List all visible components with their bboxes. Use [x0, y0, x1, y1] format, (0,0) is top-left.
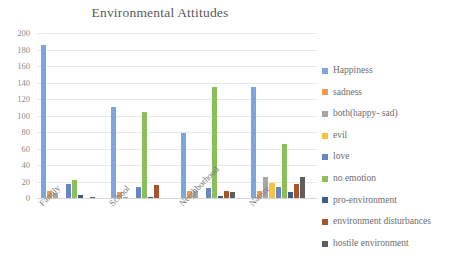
legend-label: love — [333, 152, 349, 162]
bar — [251, 87, 256, 198]
bar — [294, 184, 299, 198]
legend-label: environment disturbances — [333, 217, 431, 227]
legend-item-both-happy-sad[interactable]: both(happy- sad) — [322, 103, 467, 125]
bar-group-family — [37, 33, 107, 198]
bar — [212, 87, 217, 198]
legend-label: sadness — [333, 88, 362, 98]
y-tick-label-40: 40 — [22, 160, 31, 170]
bar-group-nature — [247, 33, 317, 198]
legend-label: pro-environment — [333, 196, 397, 206]
y-tick-label-80: 80 — [22, 127, 31, 137]
environmental-attitudes-chart: Environmental Attitudes 0204060801001201… — [0, 0, 467, 280]
legend-item-love[interactable]: love — [322, 146, 467, 168]
bar — [300, 177, 305, 198]
legend-swatch-icon — [322, 241, 328, 247]
bar — [181, 133, 186, 198]
bar — [224, 191, 229, 198]
bar — [276, 187, 281, 198]
legend-label: both(happy- sad) — [333, 109, 398, 119]
bar — [41, 45, 46, 198]
legend-item-no-emotion[interactable]: no emotion — [322, 168, 467, 190]
legend-label: evil — [333, 131, 347, 141]
x-label-slot: School — [107, 198, 177, 258]
legend-item-happiness[interactable]: Happiness — [322, 60, 467, 82]
x-label-slot: Family — [37, 198, 107, 258]
x-axis-category-labels: FamilySchoolNeighborhoodNature — [37, 198, 317, 258]
legend-item-pro-environment[interactable]: pro-environment — [322, 190, 467, 212]
y-axis-tick-labels: 020406080100120140160180200 — [0, 33, 34, 198]
bars — [247, 33, 317, 198]
y-tick-label-100: 100 — [17, 111, 30, 121]
bar — [142, 112, 147, 198]
legend-label: no emotion — [333, 174, 376, 184]
y-tick-label-120: 120 — [17, 94, 30, 104]
legend-item-sadness[interactable]: sadness — [322, 82, 467, 104]
bars — [37, 33, 107, 198]
bar — [206, 188, 211, 198]
bar-groups — [37, 33, 317, 198]
legend-swatch-icon — [322, 133, 328, 139]
legend-swatch-icon — [322, 154, 328, 160]
legend-item-environment-disturbances[interactable]: environment disturbances — [322, 211, 467, 233]
y-tick-label-200: 200 — [17, 28, 30, 38]
legend-swatch-icon — [322, 89, 328, 95]
legend-item-evil[interactable]: evil — [322, 125, 467, 147]
bar-group-school — [107, 33, 177, 198]
y-tick-label-20: 20 — [22, 177, 31, 187]
bar — [66, 184, 71, 198]
legend-item-hostile-environment[interactable]: hostile environment — [322, 233, 467, 255]
chart-title: Environmental Attitudes — [0, 5, 320, 21]
y-tick-label-0: 0 — [26, 193, 30, 203]
bars — [107, 33, 177, 198]
legend-swatch-icon — [322, 176, 328, 182]
x-label-slot: Nature — [247, 198, 317, 258]
bar — [136, 187, 141, 198]
bar — [111, 107, 116, 198]
legend-label: hostile environment — [333, 239, 409, 249]
chart-legend: Happinesssadnessboth(happy- sad)evillove… — [322, 60, 467, 254]
y-tick-label-140: 140 — [17, 78, 30, 88]
legend-swatch-icon — [322, 68, 328, 74]
y-tick-label-160: 160 — [17, 61, 30, 71]
legend-swatch-icon — [322, 197, 328, 203]
y-tick-label-60: 60 — [22, 144, 31, 154]
legend-swatch-icon — [322, 111, 328, 117]
bar — [154, 185, 159, 198]
x-label-slot: Neighborhood — [177, 198, 247, 258]
plot-area — [37, 33, 317, 198]
legend-swatch-icon — [322, 219, 328, 225]
bar — [282, 144, 287, 198]
y-tick-label-180: 180 — [17, 45, 30, 55]
bar — [72, 180, 77, 198]
legend-label: Happiness — [333, 66, 373, 76]
